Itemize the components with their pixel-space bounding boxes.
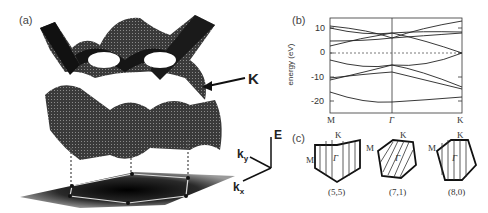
dirac-gap-left (88, 52, 120, 68)
xtick-m: M (327, 115, 335, 125)
kx-axis-label: kx (233, 180, 244, 196)
panel-b-label: (b) (292, 14, 305, 26)
ytick-minus-20: -20 (311, 96, 324, 106)
zone-1-chirality: (5,5) (328, 187, 345, 197)
ytick-minus-10: -10 (311, 72, 324, 82)
band-structure-plot (330, 18, 462, 113)
panel-c-label: (c) (292, 132, 305, 144)
zone-2-k: K (400, 130, 407, 140)
zone-2-m: M (366, 143, 374, 153)
xtick-k: K (457, 115, 464, 125)
zone-2-gamma: Γ (395, 153, 400, 163)
zone-1-gamma: Γ (333, 153, 338, 163)
band-curves (330, 21, 462, 102)
zone-3-chirality: (8,0) (448, 187, 465, 197)
zone-2-chirality: (7,1) (389, 187, 406, 197)
dirac-gap-right (144, 52, 176, 68)
ytick-10: 10 (315, 23, 325, 33)
zone-3-k: K (457, 130, 464, 140)
zone-1-m: M (306, 155, 314, 165)
ytick-0: 0 (320, 47, 325, 57)
energy-axis-label: E (274, 128, 282, 142)
zone-3-gamma: Γ (452, 153, 457, 163)
zone-3-m: M (428, 143, 436, 153)
xtick-gamma: Γ (389, 115, 394, 125)
zone-1-k: K (335, 130, 342, 140)
k-arrow-icon (208, 78, 245, 86)
ky-axis-label: ky (237, 147, 248, 163)
y-axis-label: energy (eV) (286, 44, 295, 86)
k-point-label: K (248, 70, 259, 87)
